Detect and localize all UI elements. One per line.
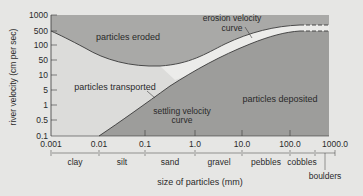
class-pebbles: pebbles [251, 157, 281, 167]
label-particles-eroded: particles eroded [96, 32, 160, 42]
svg-text:10.0: 10.0 [234, 139, 251, 149]
svg-text:500: 500 [34, 26, 48, 36]
label-particles-deposited: particles deposited [242, 94, 317, 104]
svg-text:10: 10 [39, 70, 49, 80]
svg-text:0.1: 0.1 [139, 139, 151, 149]
erosion-deposition-chart: 1000 500 100 50 10 5 1 0.5 0.1 0.001 0.0… [0, 0, 363, 196]
class-silt: silt [117, 157, 128, 167]
label-erosion-curve-1: erosion velocity [203, 13, 262, 23]
label-erosion-curve-2: curve [222, 23, 243, 33]
svg-text:1.0: 1.0 [189, 139, 201, 149]
class-gravel: gravel [207, 157, 230, 167]
svg-text:100: 100 [34, 40, 48, 50]
class-sand: sand [161, 157, 180, 167]
class-boulders: boulders [309, 171, 342, 181]
svg-text:0.001: 0.001 [40, 139, 62, 149]
y-axis-title: river velocity (cm per sec) [8, 28, 18, 125]
label-particles-transported: particles transported [74, 82, 156, 92]
label-settling-curve-2: curve [172, 115, 193, 125]
class-clay: clay [67, 157, 83, 167]
svg-text:0.01: 0.01 [91, 139, 108, 149]
svg-text:0.5: 0.5 [36, 115, 48, 125]
svg-text:5: 5 [43, 85, 48, 95]
svg-text:50: 50 [39, 55, 49, 65]
class-cobbles: cobbles [287, 157, 316, 167]
svg-text:100.0: 100.0 [279, 139, 301, 149]
svg-text:1000.0: 1000.0 [322, 139, 348, 149]
svg-text:1: 1 [43, 100, 48, 110]
y-tick-labels: 1000 500 100 50 10 5 1 0.5 0.1 [29, 10, 48, 141]
x-axis-title: size of particles (mm) [157, 177, 243, 187]
x-tick-labels: 0.001 0.01 0.1 1.0 10.0 100.0 1000.0 [40, 139, 348, 149]
svg-text:1000: 1000 [29, 10, 48, 20]
